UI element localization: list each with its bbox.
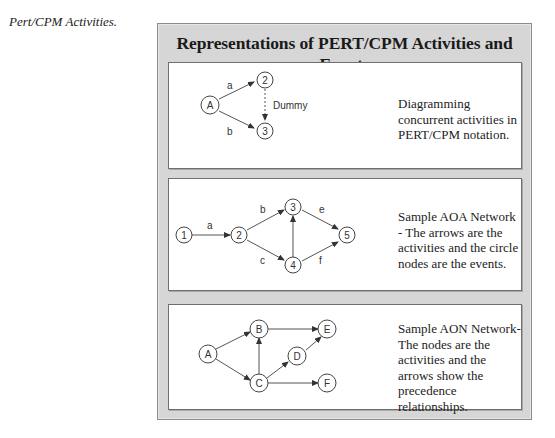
- edge-label-e: e: [319, 204, 325, 215]
- svg-text:1: 1: [181, 230, 187, 241]
- panel-description-concurrent: Diagramming concurrent activities in PER…: [398, 96, 523, 143]
- edge-c: [247, 240, 284, 260]
- svg-text:2: 2: [236, 230, 242, 241]
- edge-label-b: b: [227, 126, 233, 137]
- edge-label-a: a: [227, 80, 233, 91]
- svg-text:A: A: [205, 349, 212, 360]
- panel-description-aoa: Sample AOA Network - The arrows are the …: [398, 209, 523, 271]
- svg-text:3: 3: [290, 202, 296, 213]
- edge-label-f: f: [319, 255, 322, 266]
- node-4: 4: [285, 257, 301, 273]
- figure-frame: Representations of PERT/CPM Activities a…: [157, 23, 532, 420]
- node-3: 3: [257, 123, 273, 139]
- node-F: F: [318, 374, 336, 392]
- svg-text:D: D: [293, 351, 300, 362]
- node-C: C: [250, 374, 268, 392]
- panel-aoa-network: a b c e f 1 2 3 4 5: [168, 178, 522, 291]
- svg-text:C: C: [255, 378, 262, 389]
- node-1: 1: [176, 227, 192, 243]
- svg-text:5: 5: [344, 230, 350, 241]
- edge-b: [219, 111, 254, 128]
- panel-description-aon: Sample AON Network- The nodes are the ac…: [398, 321, 523, 414]
- node-3: 3: [285, 199, 301, 215]
- node-B: B: [250, 320, 268, 338]
- svg-text:A: A: [207, 100, 214, 111]
- node-D: D: [288, 347, 306, 365]
- node-A: A: [199, 345, 217, 363]
- node-2: 2: [257, 72, 273, 88]
- edge-A-B: [216, 332, 250, 349]
- edge-label-b: b: [260, 204, 266, 215]
- edge-C-D: [267, 362, 288, 378]
- edge-A-C: [216, 359, 250, 380]
- svg-text:2: 2: [262, 75, 268, 86]
- edge-a: [219, 82, 254, 99]
- panel-aon-network: A B C D E F Sample AON Networ: [168, 304, 522, 410]
- node-E: E: [318, 320, 336, 338]
- svg-text:4: 4: [290, 260, 296, 271]
- node-A: A: [201, 96, 219, 114]
- svg-text:F: F: [324, 378, 330, 389]
- svg-text:B: B: [256, 324, 263, 335]
- figure-caption: Pert/CPM Activities.: [9, 14, 117, 30]
- panel-concurrent-activities: a b Dummy A 2 3 Diagramming concurrent a…: [168, 62, 522, 169]
- svg-text:3: 3: [262, 126, 268, 137]
- node-5: 5: [339, 227, 355, 243]
- edge-D-E: [306, 337, 321, 350]
- node-2: 2: [231, 227, 247, 243]
- edge-label-a: a: [207, 220, 213, 231]
- edge-label-dummy: Dummy: [273, 100, 307, 111]
- svg-text:E: E: [324, 324, 331, 335]
- edge-label-c: c: [260, 255, 265, 266]
